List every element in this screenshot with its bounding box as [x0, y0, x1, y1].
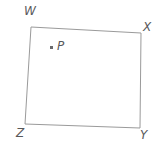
geometry-figure: P W X Y Z	[0, 0, 167, 149]
quadrilateral-svg	[0, 0, 167, 149]
point-p-marker	[50, 46, 53, 49]
vertex-label-x: X	[143, 21, 151, 33]
quadrilateral-wxyz	[25, 27, 141, 128]
vertex-label-y: Y	[140, 129, 147, 141]
vertex-label-z: Z	[16, 127, 24, 139]
point-p-label: P	[57, 40, 64, 52]
vertex-label-w: W	[24, 5, 36, 17]
